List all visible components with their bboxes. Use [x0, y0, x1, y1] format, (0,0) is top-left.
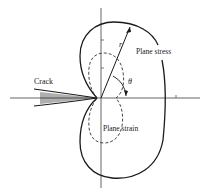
plane-stress-label: Plane stress [136, 47, 171, 56]
angle-arrowhead-icon [124, 90, 128, 96]
crack-label: Crack [34, 77, 53, 86]
radius-arrowhead-icon [126, 27, 131, 33]
radius-line [101, 27, 130, 98]
plane-strain-label: Plane strain [103, 124, 138, 133]
angle-label: θ [128, 77, 132, 86]
plastic-zone-diagram: Crack Plane stress Plane strain r θ [0, 0, 212, 192]
